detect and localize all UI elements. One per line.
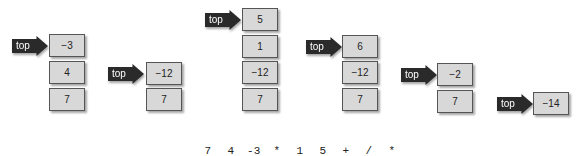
stack-4-item-1: 6 bbox=[342, 35, 378, 58]
stack-4-item-3: 7 bbox=[342, 88, 378, 111]
stack-4-item-2: −12 bbox=[342, 61, 378, 84]
top-label: top bbox=[108, 64, 144, 84]
stack-2-item-1: −12 bbox=[146, 62, 182, 85]
top-pointer-arrow-6: top bbox=[497, 94, 533, 114]
stack-6-item-1: −14 bbox=[533, 92, 569, 115]
expression-token: 1 bbox=[288, 145, 311, 156]
expression-token: 7 bbox=[196, 145, 219, 156]
top-label: top bbox=[12, 36, 48, 56]
stack-3-item-4: 7 bbox=[242, 88, 278, 111]
top-pointer-arrow-2: top bbox=[108, 64, 144, 84]
stack-5-item-1: −2 bbox=[437, 63, 473, 86]
expression-token: 5 bbox=[311, 145, 334, 156]
top-pointer-arrow-5: top bbox=[401, 65, 437, 85]
top-pointer-arrow-3: top bbox=[205, 10, 241, 30]
top-label: top bbox=[497, 94, 533, 114]
top-label: top bbox=[306, 37, 342, 57]
expression-token: -3 bbox=[242, 145, 265, 156]
top-label: top bbox=[205, 10, 241, 30]
top-pointer-arrow-4: top bbox=[306, 37, 342, 57]
stack-1-item-2: 4 bbox=[49, 61, 85, 84]
stack-3-item-1: 5 bbox=[242, 8, 278, 31]
stack-3-item-3: −12 bbox=[242, 61, 278, 84]
postfix-expression: 74-3*15+/* bbox=[183, 133, 403, 156]
top-pointer-arrow-1: top bbox=[12, 36, 48, 56]
expression-token: + bbox=[334, 145, 357, 156]
expression-token: * bbox=[265, 145, 288, 156]
expression-token: * bbox=[380, 145, 403, 156]
expression-token: 4 bbox=[219, 145, 242, 156]
stack-1-item-3: 7 bbox=[49, 88, 85, 111]
stack-1-item-1: −3 bbox=[49, 34, 85, 57]
top-label: top bbox=[401, 65, 437, 85]
stack-3-item-2: 1 bbox=[242, 35, 278, 58]
stack-2-item-2: 7 bbox=[146, 88, 182, 111]
stack-5-item-2: 7 bbox=[437, 90, 473, 113]
expression-token: / bbox=[357, 145, 380, 156]
